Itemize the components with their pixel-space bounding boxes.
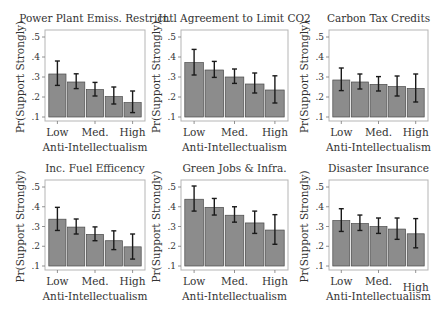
y-tick-label: .2 [315, 241, 324, 251]
y-tick-label: .3 [31, 222, 40, 232]
y-tick-label: .4 [315, 202, 324, 212]
y-axis-label: Pr(Support Strongly) [14, 170, 26, 282]
x-tick-label: High [262, 126, 288, 138]
panel-title: Green Jobs & Infra. [182, 162, 286, 174]
y-tick-label: .3 [315, 222, 324, 232]
small-multiples-bar-chart: Power Plant Emiss. Restrict..1.2.3.4.5Pr… [0, 0, 443, 316]
x-axis-label: Anti-Intellectualism [325, 290, 431, 302]
x-tick-label: Low [183, 275, 205, 287]
y-tick-label: .3 [167, 222, 176, 232]
y-tick-label: .1 [31, 261, 40, 271]
x-tick-label: Med. [221, 275, 248, 287]
y-tick-label: .1 [31, 112, 40, 122]
chart-panel: Intl Agreement to Limit CO2.1.2.3.4.5Pr(… [150, 12, 311, 153]
y-tick-label: .3 [315, 72, 324, 82]
y-tick-label: .4 [31, 52, 40, 62]
x-tick-label: Low [330, 126, 352, 138]
x-tick-label: High [120, 275, 146, 287]
x-tick-label: High [403, 126, 429, 138]
x-tick-label: High [262, 275, 288, 287]
x-tick-label: Low [46, 275, 68, 287]
y-tick-label: .1 [315, 112, 324, 122]
panel-title: Power Plant Emiss. Restrict. [19, 12, 171, 24]
y-axis-label: Pr(Support Strongly) [150, 21, 162, 133]
y-tick-label: .2 [315, 92, 324, 102]
y-tick-label: .5 [167, 182, 176, 192]
panel-title: Intl Agreement to Limit CO2 [158, 12, 310, 24]
y-tick-label: .2 [167, 92, 176, 102]
y-tick-label: .3 [167, 72, 176, 82]
y-tick-label: .4 [167, 202, 176, 212]
y-tick-label: .5 [31, 32, 40, 42]
bar [225, 215, 244, 266]
y-tick-label: .5 [315, 182, 324, 192]
x-tick-label: Med. [365, 275, 392, 287]
y-tick-label: .4 [31, 202, 40, 212]
x-axis-label: Anti-Intellectualism [42, 290, 148, 302]
bar [205, 207, 224, 266]
panel-title: Inc. Fuel Efficency [45, 162, 145, 174]
chart-panel: Power Plant Emiss. Restrict..1.2.3.4.5Pr… [14, 12, 171, 153]
y-tick-label: .1 [167, 112, 176, 122]
x-tick-label: Med. [365, 126, 392, 138]
x-axis-label: Anti-Intellectualism [325, 141, 431, 153]
y-tick-label: .3 [31, 72, 40, 82]
y-axis-label: Pr(Support Strongly) [14, 21, 26, 133]
y-axis-label: Pr(Support Strongly) [298, 21, 310, 133]
chart-panel: Green Jobs & Infra..1.2.3.4.5Pr(Support … [150, 162, 288, 302]
chart-panel: Inc. Fuel Efficency.1.2.3.4.5Pr(Support … [14, 162, 148, 302]
x-axis-label: Anti-Intellectualism [181, 141, 287, 153]
x-tick-label: Low [46, 126, 68, 138]
panel-title: Disaster Insurance [328, 162, 429, 174]
chart-panel: Carbon Tax Credits.1.2.3.4.5Pr(Support S… [298, 12, 431, 153]
y-tick-label: .5 [167, 32, 176, 42]
x-axis-label: Anti-Intellectualism [42, 141, 148, 153]
y-axis-label: Pr(Support Strongly) [298, 170, 310, 282]
y-tick-label: .5 [31, 182, 40, 192]
x-axis-label: Anti-Intellectualism [181, 290, 287, 302]
y-tick-label: .5 [315, 32, 324, 42]
y-tick-label: .4 [167, 52, 176, 62]
y-tick-label: .4 [315, 52, 324, 62]
y-axis-label: Pr(Support Strongly) [150, 170, 162, 282]
y-tick-label: .2 [167, 241, 176, 251]
y-tick-label: .1 [167, 261, 176, 271]
y-tick-label: .2 [31, 241, 40, 251]
x-tick-label: Med. [81, 126, 108, 138]
x-tick-label: High [120, 126, 146, 138]
y-tick-label: .1 [315, 261, 324, 271]
chart-panel: Disaster Insurance.1.2.3.4.5Pr(Support S… [298, 162, 431, 302]
figure: Power Plant Emiss. Restrict..1.2.3.4.5Pr… [0, 0, 443, 316]
x-tick-label: Med. [221, 126, 248, 138]
panel-title: Carbon Tax Credits [327, 12, 430, 24]
x-tick-label: Low [183, 126, 205, 138]
x-tick-label: Med. [81, 275, 108, 287]
y-tick-label: .2 [31, 92, 40, 102]
x-tick-label: Low [330, 275, 352, 287]
